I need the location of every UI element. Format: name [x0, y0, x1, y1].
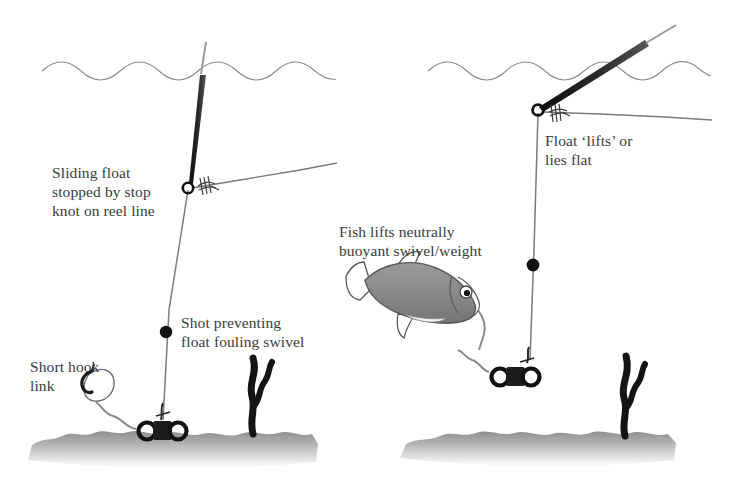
main-line-right	[530, 113, 538, 360]
reel-line-right	[543, 112, 712, 120]
hook-link-right	[458, 350, 489, 372]
label-short-hook-link: Short hook link	[30, 357, 99, 395]
lakebed-right	[400, 431, 676, 466]
main-line-left	[163, 190, 188, 420]
label-float-lifts: Float ‘lifts’ or lies flat	[545, 131, 632, 169]
float-body-right	[539, 40, 649, 112]
hook-link-left	[96, 402, 136, 429]
label-shot-preventing: Shot preventing float fouling swivel	[181, 313, 304, 351]
swivel-weight-right	[492, 347, 540, 386]
label-sliding-float: Sliding float stopped by stop knot on re…	[52, 163, 155, 220]
float-antenna-left	[201, 42, 206, 74]
water-surface-line-left	[42, 62, 336, 80]
weed-right	[623, 356, 645, 436]
shot-right	[527, 259, 540, 272]
float-body-left	[189, 75, 206, 184]
shot-left	[160, 326, 172, 338]
float-antenna-right	[646, 25, 676, 43]
fish	[346, 252, 485, 350]
water-surface-line-right	[428, 62, 711, 80]
weed-left	[251, 358, 272, 434]
fishing-rig-diagram: Sliding float stopped by stop knot on re…	[0, 0, 737, 498]
label-fish-lifts-swivel: Fish lifts neutrally buoyant swivel/weig…	[339, 222, 482, 260]
reel-line-left	[192, 163, 337, 188]
panel-left	[28, 42, 337, 468]
